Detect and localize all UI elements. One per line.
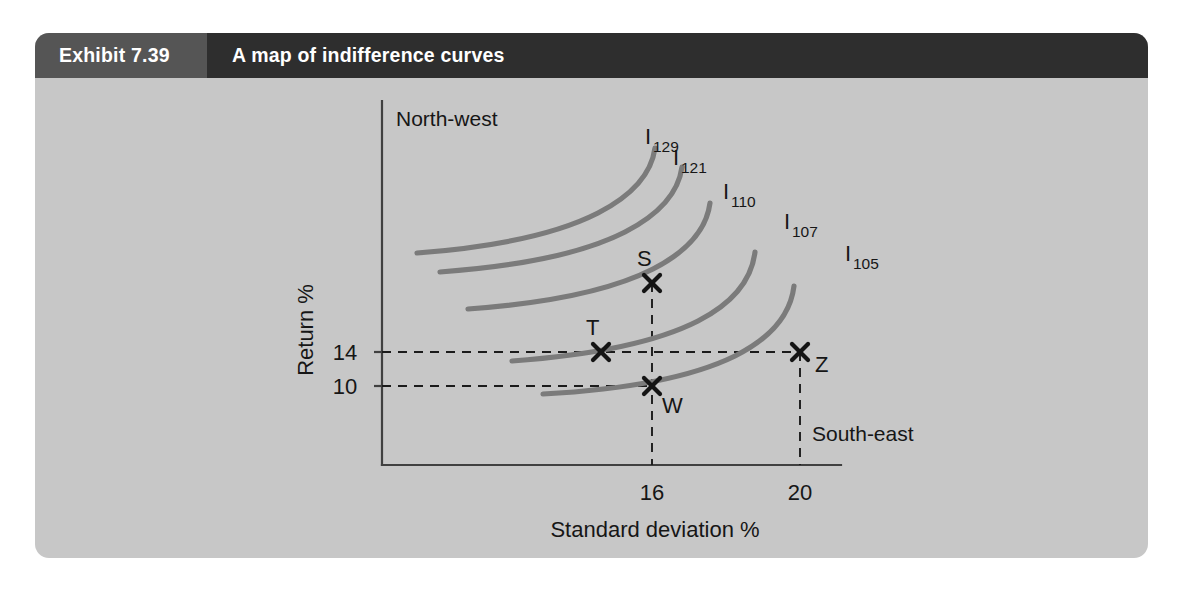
curve-label-I107: I 107 [784, 209, 818, 240]
curve-label-I129-main: I [645, 124, 651, 149]
data-point-T-label: T [586, 315, 599, 340]
chart-canvas: I 129 I 121 I 110 I 107 I 105 [35, 78, 1148, 558]
indifference-curve-I107 [512, 252, 755, 361]
curve-label-I105-sub: 105 [853, 255, 879, 272]
curve-label-I107-sub: 107 [792, 223, 818, 240]
data-point-W: W [644, 378, 683, 418]
curve-label-I110-main: I [723, 179, 729, 204]
exhibit-number-block: Exhibit 7.39 [35, 33, 207, 78]
data-point-S-label: S [637, 246, 652, 271]
curve-label-I105: I 105 [845, 241, 879, 272]
curve-label-I121: I 121 [673, 145, 707, 176]
data-point-W-label: W [662, 393, 683, 418]
y-tick-label-14: 14 [333, 340, 357, 365]
annotation-south-east: South-east [812, 422, 914, 445]
data-point-Z-label: Z [815, 352, 828, 377]
curve-label-I107-main: I [784, 209, 790, 234]
exhibit-title-block: A map of indifference curves [207, 33, 1148, 78]
y-tick-label-10: 10 [333, 374, 357, 399]
curve-label-I121-main: I [673, 145, 679, 170]
indifference-curve-I105 [543, 286, 794, 394]
exhibit-number-label: Exhibit 7.39 [59, 44, 170, 67]
x-tick-label-16: 16 [640, 480, 664, 505]
y-axis-title: Return % [293, 284, 318, 376]
exhibit-figure: Exhibit 7.39 A map of indifference curve… [0, 0, 1186, 597]
x-tick-label-20: 20 [788, 480, 812, 505]
exhibit-title-label: A map of indifference curves [232, 44, 505, 67]
annotation-north-west: North-west [396, 107, 498, 130]
x-axis-title: Standard deviation % [550, 517, 759, 542]
curve-label-I105-main: I [845, 241, 851, 266]
data-point-Z: Z [792, 344, 828, 377]
exhibit-header: Exhibit 7.39 A map of indifference curve… [35, 33, 1148, 78]
curve-label-I121-sub: 121 [681, 159, 707, 176]
indifference-curve-chart: I 129 I 121 I 110 I 107 I 105 [35, 78, 1148, 558]
curve-label-I110: I 110 [723, 179, 756, 210]
curve-label-I110-sub: 110 [731, 193, 756, 210]
